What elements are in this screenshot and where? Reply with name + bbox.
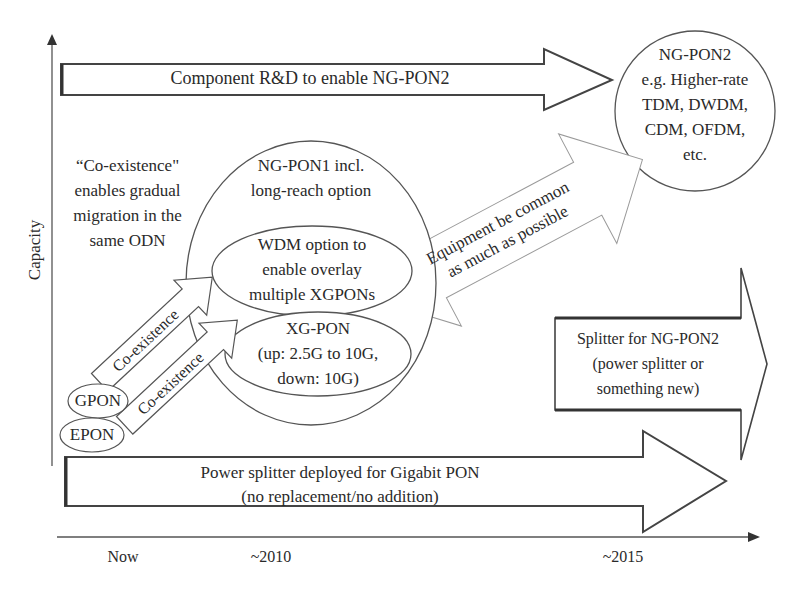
xgpon-line1: XG-PON [238,316,398,341]
wdm-option-line3: multiple XGPONs [232,282,392,307]
x-tick-2010: ~2010 [236,548,306,567]
ngpon2-line2: e.g. Higher-rate [625,67,765,92]
ngpon2-line4: CDM, OFDM, [625,117,765,142]
coexistence-lower-label: Co-existence [134,349,207,418]
ngpon2-title: NG-PON2 [625,42,765,67]
x-tick-now: Now [98,548,148,567]
ngpon1-line2: long-reach option [236,178,386,203]
ngpon2-line5: etc. [625,142,765,167]
power-splitter-label: Power splitter deployed for Gigabit PON … [160,461,520,509]
x-axis-arrowhead-icon [748,532,760,542]
xgpon-label: XG-PON (up: 2.5G to 10G, down: 10G) [238,316,398,391]
splitter-ngpon2-line1: Splitter for NG-PON2 [555,326,741,351]
power-splitter-line2: (no replacement/no addition) [160,485,520,509]
y-axis-arrowhead-icon [47,34,57,45]
coexistence-note: “Co-existence" enables gradual migration… [50,153,205,253]
wdm-option-label: WDM option to enable overlay multiple XG… [232,232,392,307]
wdm-option-line2: enable overlay [232,257,392,282]
component-rd-label: Component R&D to enable NG-PON2 [100,68,520,89]
splitter-ngpon2-line2: (power splitter or [555,351,741,376]
coexistence-note-line1: “Co-existence" [50,153,205,178]
splitter-ngpon2-label: Splitter for NG-PON2 (power splitter or … [555,326,741,401]
power-splitter-line1: Power splitter deployed for Gigabit PON [160,461,520,485]
xgpon-line2: (up: 2.5G to 10G, [238,341,398,366]
coexistence-upper-label: Co-existence [109,306,182,375]
gpon-label: GPON [68,391,128,411]
xgpon-line3: down: 10G) [238,366,398,391]
y-axis-label: Capacity [25,219,44,280]
ngpon1-label: NG-PON1 incl. long-reach option [236,153,386,203]
coexistence-note-line4: same ODN [50,228,205,253]
splitter-ngpon2-line3: something new) [555,376,741,401]
coexistence-note-line3: migration in the [50,203,205,228]
wdm-option-line1: WDM option to [232,232,392,257]
coexistence-note-line2: enables gradual [50,178,205,203]
epon-label: EPON [60,425,124,445]
x-axis [57,532,760,542]
ngpon2-line3: TDM, DWDM, [625,92,765,117]
ngpon1-line1: NG-PON1 incl. [236,153,386,178]
x-tick-2015: ~2015 [588,548,658,567]
ngpon2-label: NG-PON2 e.g. Higher-rate TDM, DWDM, CDM,… [625,42,765,167]
